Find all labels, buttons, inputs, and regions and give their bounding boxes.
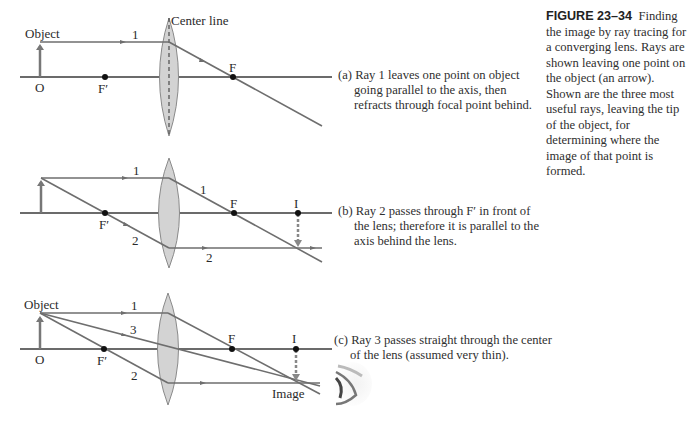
caption-text: (c) Ray 3 passes straight through the ce…	[334, 333, 564, 363]
ray-arrow-icon	[199, 58, 206, 62]
ray-1-label: 1	[132, 27, 139, 42]
ray-1-refracted	[168, 313, 320, 394]
focal-label: F	[229, 60, 236, 75]
caption-text: (b) Ray 2 passes through F′ in front of …	[338, 204, 543, 249]
front-focal-point	[102, 74, 108, 80]
caption-text: (a) Ray 1 leaves one point on object goi…	[338, 68, 538, 113]
front-focal-label: F′	[99, 217, 109, 232]
ray-arrow-icon	[121, 311, 127, 315]
origin-label: O	[35, 352, 44, 367]
focal-point	[229, 346, 235, 352]
object-label: Object	[25, 26, 60, 41]
ray-arrow-icon	[200, 381, 206, 385]
ray-arrow-icon	[121, 333, 128, 336]
object-arrowhead	[36, 316, 44, 322]
panel-b-caption: (b) Ray 2 passes through F′ in front of …	[338, 204, 543, 249]
lens	[159, 158, 180, 268]
ray-1-label: 1	[200, 182, 207, 197]
ray-2-label: 2	[132, 233, 139, 248]
ray-2-label: 2	[131, 368, 138, 383]
front-focal-label: F′	[97, 353, 107, 368]
figure-caption-text: Finding the image by ray tracing for a c…	[546, 9, 686, 178]
image-label: Image	[272, 386, 305, 401]
panel-c-caption: (c) Ray 3 passes straight through the ce…	[334, 333, 564, 363]
ray-arrow-icon	[310, 246, 316, 250]
image-point-label: I	[294, 196, 298, 211]
front-focal-point	[101, 346, 107, 352]
object-arrowhead	[37, 180, 45, 186]
figure-caption: FIGURE 23–34 Finding the image by ray tr…	[546, 9, 690, 180]
ray-1-refracted	[169, 42, 322, 126]
front-focal-label: F′	[98, 81, 108, 96]
front-focal-point	[102, 210, 108, 216]
ray-1-label: 1	[133, 163, 140, 178]
object-label: Object	[24, 297, 59, 312]
panel-a: Object Center line O F′ F 1	[20, 13, 332, 136]
focal-label: F	[228, 331, 235, 346]
figure-number: FIGURE 23–34	[546, 9, 632, 23]
object-arrowhead	[36, 44, 44, 50]
center-line-label: Center line	[171, 13, 229, 28]
image-point-label: I	[292, 331, 296, 346]
panel-b: F′ F I 1 1 2 2	[20, 158, 332, 268]
ray-3-label: 3	[130, 322, 137, 337]
image-arrowhead	[294, 240, 302, 247]
ray-arrow-icon	[122, 176, 128, 180]
panel-a-caption: (a) Ray 1 leaves one point on object goi…	[338, 68, 538, 113]
ray-arrow-icon	[123, 222, 130, 226]
origin-label: O	[35, 80, 44, 95]
focal-label: F	[230, 196, 237, 211]
ray-arrow-icon	[120, 40, 126, 44]
panel-c: Object O F′ F I Image 1 2 3	[20, 293, 372, 406]
image-point	[293, 346, 299, 352]
ray-2-label: 2	[206, 250, 213, 265]
eye-icon	[332, 362, 372, 406]
ray-1-label: 1	[131, 298, 138, 313]
